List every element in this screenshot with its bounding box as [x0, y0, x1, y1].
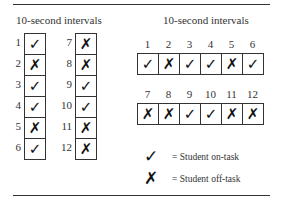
x-mark-icon: ✗	[142, 107, 155, 122]
x-mark-icon: ✗	[80, 121, 93, 136]
interval-cell: ✓	[179, 103, 201, 125]
x-mark-icon: ✗	[226, 57, 239, 72]
checkmark-icon: ✓	[80, 79, 93, 94]
x-mark-icon: ✗	[29, 58, 42, 73]
interval-cell: ✓	[24, 138, 46, 160]
bottom-rule	[13, 195, 270, 196]
interval-cell: ✗	[242, 103, 264, 125]
checkmark-icon: ✓	[29, 79, 42, 94]
legend-off-task: = Student off-task	[172, 174, 241, 184]
interval-number: 9	[58, 78, 72, 90]
interval-cell: ✗	[137, 103, 159, 125]
interval-cell: ✓	[24, 75, 46, 97]
checkmark-icon: ✓	[29, 142, 42, 157]
checkmark-icon: ✓	[29, 100, 42, 115]
checkmark-icon: ✓	[80, 100, 93, 115]
checkmark-icon: ✓	[184, 107, 197, 122]
interval-cell: ✓	[200, 53, 222, 75]
interval-number: 8	[58, 57, 72, 69]
checkmark-icon: ✓	[205, 57, 218, 72]
interval-cell: ✗	[24, 54, 46, 76]
interval-cell: ✓	[75, 96, 97, 118]
checkmark-icon: ✓	[144, 146, 158, 166]
x-mark-icon: ✗	[80, 58, 93, 73]
interval-cell: ✓	[242, 53, 264, 75]
interval-cell: ✓	[137, 53, 159, 75]
interval-cell: ✗	[158, 53, 180, 75]
checkmark-icon: ✓	[205, 107, 218, 122]
interval-number: 10	[200, 88, 221, 100]
interval-cell: ✓	[200, 103, 222, 125]
interval-number: 6	[7, 141, 21, 153]
interval-number: 11	[58, 120, 72, 132]
interval-number: 7	[137, 88, 158, 100]
interval-cell: ✗	[75, 54, 97, 76]
interval-number: 1	[137, 38, 158, 50]
interval-number: 6	[242, 38, 263, 50]
interval-number: 9	[179, 88, 200, 100]
x-mark-icon: ✗	[80, 142, 93, 157]
x-mark-icon: ✗	[226, 107, 239, 122]
interval-cell: ✗	[75, 33, 97, 55]
interval-number: 3	[7, 78, 21, 90]
interval-number: 12	[242, 88, 263, 100]
x-mark-icon: ✗	[144, 168, 158, 188]
right-panel-title: 10-second intervals	[163, 14, 249, 26]
interval-cell: ✓	[24, 96, 46, 118]
interval-cell: ✗	[158, 103, 180, 125]
left-panel-title: 10-second intervals	[16, 14, 102, 26]
interval-number: 5	[7, 120, 21, 132]
interval-number: 2	[7, 57, 21, 69]
interval-cell: ✓	[179, 53, 201, 75]
x-mark-icon: ✗	[80, 37, 93, 52]
x-mark-icon: ✗	[163, 107, 176, 122]
interval-cell: ✗	[75, 117, 97, 139]
interval-number: 1	[7, 36, 21, 48]
interval-number: 10	[58, 99, 72, 111]
interval-number: 8	[158, 88, 179, 100]
interval-number: 7	[58, 36, 72, 48]
interval-number: 2	[158, 38, 179, 50]
interval-number: 12	[58, 141, 72, 153]
interval-cell: ✓	[75, 75, 97, 97]
legend-on-task: = Student on-task	[172, 152, 239, 162]
interval-cell: ✓	[24, 33, 46, 55]
interval-cell: ✗	[24, 117, 46, 139]
interval-number: 4	[200, 38, 221, 50]
checkmark-icon: ✓	[184, 57, 197, 72]
interval-number: 4	[7, 99, 21, 111]
interval-number: 5	[221, 38, 242, 50]
interval-number: 11	[221, 88, 242, 100]
top-rule	[13, 4, 270, 5]
checkmark-icon: ✓	[29, 37, 42, 52]
x-mark-icon: ✗	[29, 121, 42, 136]
interval-cell: ✗	[221, 103, 243, 125]
checkmark-icon: ✓	[142, 57, 155, 72]
checkmark-icon: ✓	[247, 57, 260, 72]
interval-cell: ✗	[75, 138, 97, 160]
x-mark-icon: ✗	[247, 107, 260, 122]
interval-number: 3	[179, 38, 200, 50]
x-mark-icon: ✗	[163, 57, 176, 72]
interval-cell: ✗	[221, 53, 243, 75]
